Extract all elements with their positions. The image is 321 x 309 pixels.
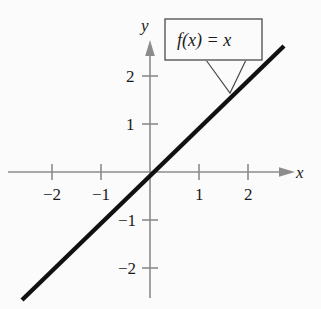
function-line (22, 46, 284, 300)
x-tick-label-1: 1 (195, 186, 204, 203)
x-tick-label--2: −2 (43, 186, 61, 203)
x-axis-label: x (296, 164, 304, 181)
function-label: f(x) = x (177, 31, 231, 49)
x-tick-label--1: −1 (92, 186, 110, 203)
y-axis-label: y (141, 17, 149, 34)
y-tick-label--2: −2 (118, 260, 136, 277)
y-tick-label-2: 2 (126, 68, 135, 85)
graph-canvas (0, 0, 321, 309)
y-axis-arrowhead (145, 40, 155, 56)
x-axis-arrowhead (279, 167, 295, 177)
y-tick-label--1: −1 (118, 212, 136, 229)
function-graph-figure: −2 −1 1 2 2 1 −1 −2 x y f(x) = x (0, 0, 321, 309)
y-tick-label-1: 1 (126, 116, 135, 133)
x-tick-label-2: 2 (244, 186, 253, 203)
